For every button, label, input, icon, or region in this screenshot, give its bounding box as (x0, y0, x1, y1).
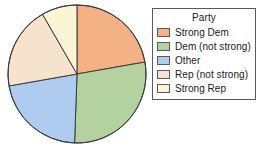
chart-legend: Party Strong DemDem (not strong)OtherRep… (152, 8, 256, 100)
legend-item: Other (157, 53, 255, 67)
pie-chart-figure: Party Strong DemDem (not strong)OtherRep… (0, 0, 261, 148)
legend-item-list: Strong DemDem (not strong)OtherRep (not … (153, 25, 255, 95)
legend-item: Strong Rep (157, 81, 255, 95)
legend-item-label: Strong Dem (175, 27, 229, 38)
legend-item-label: Other (175, 55, 200, 66)
legend-item: Rep (not strong) (157, 67, 255, 81)
legend-title: Party (153, 11, 255, 24)
legend-item-label: Rep (not strong) (175, 69, 248, 80)
legend-color-swatch (157, 42, 170, 51)
legend-color-swatch (157, 70, 170, 79)
legend-color-swatch (157, 84, 170, 93)
legend-color-swatch (157, 28, 170, 37)
legend-item-label: Strong Rep (175, 83, 226, 94)
legend-color-swatch (157, 56, 170, 65)
pie-slice-group (8, 5, 146, 143)
pie-chart-graphic (0, 0, 152, 148)
legend-item: Strong Dem (157, 25, 255, 39)
legend-item: Dem (not strong) (157, 39, 255, 53)
pie-slice (75, 62, 146, 143)
legend-item-label: Dem (not strong) (175, 41, 251, 52)
